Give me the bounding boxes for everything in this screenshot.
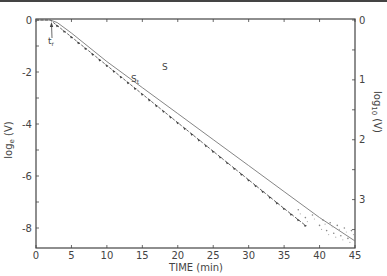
y-tick-label-left: -4 xyxy=(22,119,32,130)
scatter-point xyxy=(347,238,349,240)
scatter-point xyxy=(326,230,328,232)
y-axis-label-left: loge (V) xyxy=(3,121,16,158)
scatter-point xyxy=(297,209,299,211)
scatter-point xyxy=(339,229,340,230)
y-tick-label-right: 2 xyxy=(359,134,365,145)
svg-text:loge (V): loge (V) xyxy=(3,121,16,158)
arrow-marker xyxy=(169,116,172,119)
x-axis-label: TIME (min) xyxy=(168,262,223,273)
scatter-point xyxy=(322,219,324,221)
arrow-marker xyxy=(155,104,158,107)
scatter-point xyxy=(333,232,335,234)
x-tick-label: 5 xyxy=(68,250,74,261)
y-tick-label-left: -8 xyxy=(22,223,32,234)
scatter-point xyxy=(321,229,322,230)
scatter-point xyxy=(329,222,331,224)
arrow-marker xyxy=(304,224,307,227)
scatter-point xyxy=(340,235,342,237)
plot-frame xyxy=(36,19,355,248)
annotation-tr: tr xyxy=(48,22,55,47)
scatter-point xyxy=(300,213,301,214)
svg-text:tr: tr xyxy=(48,36,55,47)
scatter-point xyxy=(346,231,347,232)
arrow-marker xyxy=(190,133,193,136)
arrow-marker xyxy=(112,70,115,73)
scatter-point xyxy=(336,225,338,227)
arrow-marker xyxy=(176,122,179,125)
scatter-point xyxy=(353,234,354,235)
y-tick-label-left: -6 xyxy=(22,171,32,182)
y-tick-label-right: 3 xyxy=(359,194,365,205)
arrow-marker xyxy=(134,87,137,90)
plot-border xyxy=(36,19,355,248)
arrow-marker xyxy=(105,64,108,67)
scatter-point xyxy=(328,234,329,235)
x-tick-label: 45 xyxy=(349,250,362,261)
scatter-point xyxy=(325,224,326,225)
y-tick-label-left: -2 xyxy=(22,67,32,78)
scatter-point xyxy=(342,239,343,240)
data-series xyxy=(36,20,355,243)
x-tick-label: 35 xyxy=(278,250,291,261)
scatter-point xyxy=(335,237,336,238)
x-tick-label: 25 xyxy=(207,250,220,261)
series-s xyxy=(36,20,355,241)
scatter-point xyxy=(332,226,333,227)
arrow-marker xyxy=(119,76,122,79)
tick-labels: 0510152025303540450-2-4-6-80123 xyxy=(22,15,365,262)
x-tick-label: 30 xyxy=(242,250,255,261)
arrow-marker xyxy=(197,139,200,142)
scatter-point xyxy=(307,221,308,222)
annotation-st: St xyxy=(131,74,140,85)
scatter-point xyxy=(319,225,321,227)
x-tick-label: 15 xyxy=(136,250,149,261)
svg-text:log10 (V): log10 (V) xyxy=(370,91,383,133)
arrow-marker xyxy=(148,99,151,102)
arrow-marker xyxy=(141,93,144,96)
y-tick-label-right: 0 xyxy=(359,15,365,26)
series-st xyxy=(36,20,305,225)
y-axis-label-right: log10 (V) xyxy=(370,91,383,133)
x-tick-label: 20 xyxy=(171,250,184,261)
scatter-point xyxy=(349,242,350,243)
x-tick-label: 10 xyxy=(101,250,114,261)
y-tick-label-left: 0 xyxy=(26,15,32,26)
scatter-point xyxy=(344,227,346,229)
scatter-point xyxy=(305,217,307,219)
scatter-point xyxy=(351,230,353,232)
scatter-point xyxy=(314,218,315,219)
scatter-point xyxy=(312,214,314,216)
x-tick-label: 0 xyxy=(33,250,39,261)
arrow-marker xyxy=(162,110,165,113)
chart: 0510152025303540450-2-4-6-80123 TIME (mi… xyxy=(0,0,387,276)
y-tick-label-right: 1 xyxy=(359,74,365,85)
arrow-marker xyxy=(183,127,186,130)
arrow-marker xyxy=(127,81,130,84)
annotation-s: S xyxy=(162,62,168,72)
x-tick-label: 40 xyxy=(313,250,326,261)
